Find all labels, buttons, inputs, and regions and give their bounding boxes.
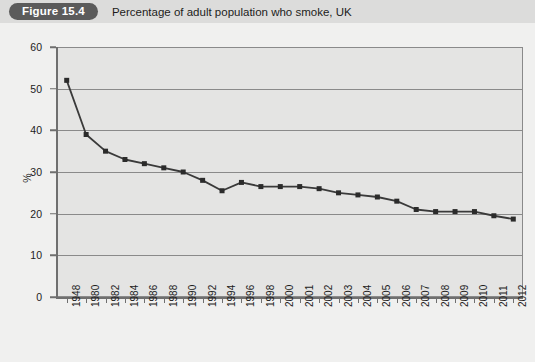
y-tick-label-10: 10 xyxy=(30,249,42,261)
x-tick-mark-1996 xyxy=(241,297,242,303)
x-tick-mark-2003 xyxy=(339,297,340,303)
y-tick-label-60: 60 xyxy=(30,41,42,53)
x-tick-mark-1984 xyxy=(125,297,126,303)
x-tick-mark-2002 xyxy=(319,297,320,303)
y-tick-mark-50 xyxy=(50,88,56,90)
x-tick-label-2000: 2000 xyxy=(284,285,295,307)
x-tick-label-2003: 2003 xyxy=(343,285,354,307)
x-tick-mark-1988 xyxy=(164,297,165,303)
x-tick-mark-2012 xyxy=(513,297,514,303)
x-tick-mark-1982 xyxy=(106,297,107,303)
x-tick-mark-2008 xyxy=(436,297,437,303)
x-tick-label-2009: 2009 xyxy=(459,285,470,307)
gridline-60 xyxy=(57,47,523,48)
y-tick-label-0: 0 xyxy=(36,291,42,303)
x-tick-mark-1986 xyxy=(144,297,145,303)
figure-header: Figure 15.4 Percentage of adult populati… xyxy=(0,0,535,23)
x-tick-label-1996: 1996 xyxy=(245,285,256,307)
x-tick-label-1990: 1990 xyxy=(187,285,198,307)
y-tick-label-40: 40 xyxy=(30,124,42,136)
x-tick-mark-2009 xyxy=(455,297,456,303)
x-tick-label-1998: 1998 xyxy=(265,285,276,307)
x-tick-mark-2005 xyxy=(377,297,378,303)
x-tick-label-2010: 2010 xyxy=(478,285,489,307)
y-tick-label-50: 50 xyxy=(30,83,42,95)
gridline-30 xyxy=(57,172,523,173)
x-tick-label-1994: 1994 xyxy=(226,285,237,307)
y-axis-line xyxy=(56,47,58,297)
x-tick-mark-1992 xyxy=(203,297,204,303)
x-tick-label-1982: 1982 xyxy=(110,285,121,307)
y-tick-mark-30 xyxy=(50,171,56,173)
x-tick-label-1948: 1948 xyxy=(71,285,82,307)
x-tick-mark-2004 xyxy=(358,297,359,303)
gridline-20 xyxy=(57,214,523,215)
y-tick-mark-0 xyxy=(50,296,56,298)
x-tick-label-1986: 1986 xyxy=(148,285,159,307)
x-tick-mark-1998 xyxy=(261,297,262,303)
x-tick-label-1980: 1980 xyxy=(90,285,101,307)
x-tick-mark-2000 xyxy=(280,297,281,303)
x-tick-mark-2010 xyxy=(474,297,475,303)
x-tick-mark-1990 xyxy=(183,297,184,303)
x-tick-mark-1994 xyxy=(222,297,223,303)
x-tick-label-2006: 2006 xyxy=(401,285,412,307)
x-tick-mark-2001 xyxy=(300,297,301,303)
x-tick-label-2007: 2007 xyxy=(420,285,431,307)
figure-number-badge: Figure 15.4 xyxy=(9,3,98,20)
x-tick-label-2008: 2008 xyxy=(440,285,451,307)
x-tick-mark-2007 xyxy=(416,297,417,303)
x-tick-label-1988: 1988 xyxy=(168,285,179,307)
x-tick-mark-2006 xyxy=(397,297,398,303)
x-tick-mark-1948 xyxy=(67,297,68,303)
x-tick-label-2004: 2004 xyxy=(362,285,373,307)
x-tick-mark-1980 xyxy=(86,297,87,303)
y-tick-mark-60 xyxy=(50,46,56,48)
x-tick-label-2012: 2012 xyxy=(517,285,528,307)
gridline-10 xyxy=(57,255,523,256)
gridline-50 xyxy=(57,89,523,90)
y-tick-mark-40 xyxy=(50,130,56,132)
x-tick-label-2002: 2002 xyxy=(323,285,334,307)
x-tick-label-1992: 1992 xyxy=(207,285,218,307)
x-tick-label-2011: 2011 xyxy=(498,285,509,307)
x-tick-label-2005: 2005 xyxy=(381,285,392,307)
y-tick-mark-10 xyxy=(50,255,56,257)
x-tick-mark-2011 xyxy=(494,297,495,303)
gridline-40 xyxy=(57,130,523,131)
y-tick-mark-20 xyxy=(50,213,56,215)
figure-title: Percentage of adult population who smoke… xyxy=(112,6,352,18)
x-tick-label-2001: 2001 xyxy=(304,285,315,307)
chart-region: 0102030405060 % 194819801982198419861988… xyxy=(0,23,535,362)
y-axis-tick-labels: 0102030405060 xyxy=(0,47,50,297)
x-tick-label-1984: 1984 xyxy=(129,285,140,307)
y-tick-label-20: 20 xyxy=(30,208,42,220)
y-axis-title: % xyxy=(21,173,33,182)
